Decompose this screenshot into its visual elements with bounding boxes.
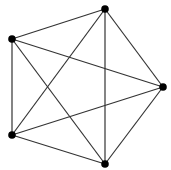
- edge-v3-v5: [105, 87, 163, 164]
- node-v5: [101, 160, 109, 168]
- nodes: [8, 5, 167, 168]
- edges: [12, 9, 163, 164]
- node-v2: [8, 35, 16, 43]
- node-v1: [101, 5, 109, 13]
- edge-v1-v2: [12, 9, 105, 39]
- edge-v3-v4: [12, 87, 163, 135]
- edge-v2-v3: [12, 39, 163, 87]
- edge-v2-v5: [12, 39, 105, 164]
- edge-v4-v5: [12, 135, 105, 164]
- complete-graph-k5: [0, 0, 171, 170]
- edge-v1-v4: [12, 9, 105, 135]
- edge-v1-v3: [105, 9, 163, 87]
- node-v4: [8, 131, 16, 139]
- node-v3: [159, 83, 167, 91]
